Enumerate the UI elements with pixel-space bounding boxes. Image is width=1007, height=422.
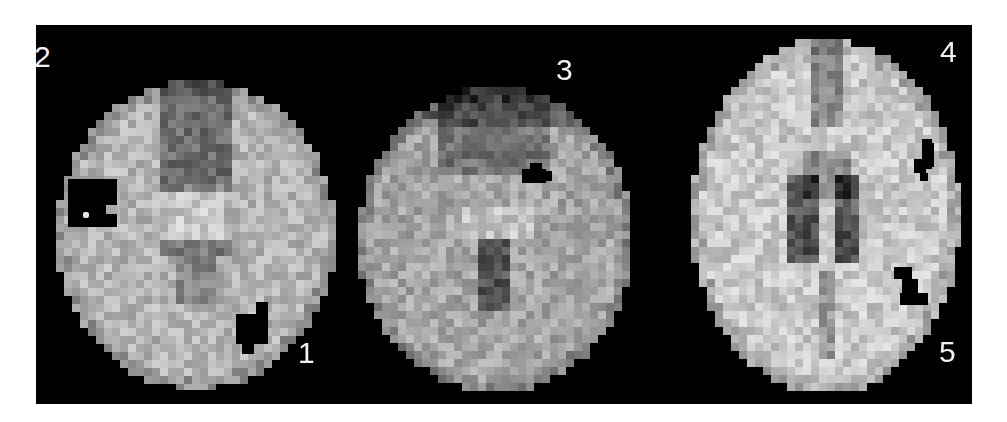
lesion-region-1 <box>256 302 268 344</box>
region-label-4: 4 <box>940 37 957 67</box>
lesion-region-2 <box>68 179 98 227</box>
brain-slice-right <box>691 39 961 394</box>
lesion-region-4 <box>914 159 926 173</box>
brain-slice-left <box>56 80 336 390</box>
lesion-region-5 <box>902 279 918 293</box>
region-label-1: 1 <box>298 338 315 368</box>
lesion-region-4 <box>928 143 934 167</box>
lesion-region-1 <box>242 344 254 354</box>
lesion-region-4 <box>920 173 928 181</box>
lesion-region-5 <box>894 267 912 279</box>
lesion-region-3 <box>530 163 542 171</box>
region-label-3: 3 <box>556 55 573 85</box>
white-dot-marker <box>83 212 89 218</box>
region-label-5: 5 <box>939 337 956 367</box>
lesion-notch <box>106 205 117 214</box>
lesion-region-3 <box>542 171 552 181</box>
brain-slice-middle <box>358 87 634 392</box>
lesion-region-5 <box>900 293 928 305</box>
mri-figure: 21345 <box>36 25 972 404</box>
region-label-2: 2 <box>36 42 51 72</box>
